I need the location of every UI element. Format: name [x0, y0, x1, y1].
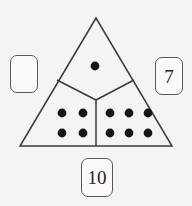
dot-triangle-puzzle: 7 10: [0, 0, 192, 206]
answer-box-bottom-label: 10: [88, 168, 107, 187]
answer-box-left[interactable]: [10, 55, 38, 93]
dot: [91, 62, 100, 71]
bottom-right-region-dots: [106, 109, 153, 138]
dot: [144, 129, 153, 138]
dot: [106, 109, 115, 118]
dot: [58, 109, 67, 118]
dot: [125, 129, 134, 138]
dot: [125, 109, 134, 118]
dot: [79, 109, 88, 118]
divider-left: [57, 80, 96, 100]
bottom-left-region-dots: [58, 109, 88, 138]
answer-box-bottom[interactable]: 10: [81, 158, 113, 197]
dot: [144, 109, 153, 118]
answer-box-right-label: 7: [164, 67, 174, 86]
divider-right: [96, 80, 134, 100]
top-region-dots: [91, 62, 100, 71]
dot: [106, 129, 115, 138]
triangle-internal-dividers: [57, 80, 134, 146]
answer-box-right[interactable]: 7: [155, 57, 183, 95]
dot: [79, 129, 88, 138]
dot: [58, 129, 67, 138]
